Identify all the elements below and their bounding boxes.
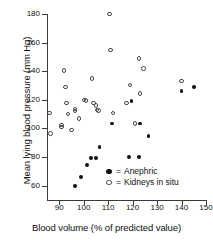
legend-equals-sign: = [115,166,124,177]
data-point-kidneys-in-situ [108,48,112,52]
data-point-anephric [192,85,196,89]
data-point-anephric [79,175,83,179]
y-tick-mark [42,186,47,187]
y-tick-mark [42,43,47,44]
data-point-kidneys-in-situ [107,12,111,16]
y-tick-mark [42,71,47,72]
x-tick-label: 110 [97,203,119,212]
open-circle-icon [103,180,115,186]
y-tick-mark [42,128,47,129]
data-point-kidneys-in-situ [84,98,88,102]
data-point-anephric [130,99,134,103]
data-point-anephric [180,89,184,93]
y-tick-label: 140 [16,67,40,75]
data-point-anephric [94,156,98,160]
chart-legend: = Anephric = Kidneys in situ [103,166,179,188]
data-point-kidneys-in-situ [137,56,141,60]
data-point-kidneys-in-situ [47,111,51,115]
legend-item-kidneys-in-situ: = Kidneys in situ [103,177,179,188]
scatter-plot-figure: Mean lying blood pressure (mm Hg) Blood … [0,0,213,240]
data-point-anephric [85,163,89,167]
data-point-kidneys-in-situ [59,125,63,129]
x-tick-label: 150 [195,203,213,212]
data-point-kidneys-in-situ [48,131,52,135]
y-axis-label: Mean lying blood pressure (mm Hg) [21,21,32,201]
x-tick-label: 100 [73,203,95,212]
x-tick-label: 140 [171,203,193,212]
y-tick-label: 100 [16,124,40,132]
data-point-anephric [110,122,114,126]
filled-circle-icon [103,169,115,175]
y-tick-label: 180 [16,10,40,18]
data-point-anephric [138,122,142,126]
y-tick-mark [42,100,47,101]
legend-item-anephric: = Anephric [103,166,179,177]
legend-equals-sign: = [115,177,124,188]
legend-label-kidneys-in-situ: Kidneys in situ [124,177,179,188]
x-tick-label: 120 [122,203,144,212]
legend-label-anephric: Anephric [124,166,158,177]
x-tick-label: 130 [146,203,168,212]
data-point-kidneys-in-situ [77,116,81,120]
data-point-kidneys-in-situ [138,91,142,95]
y-tick-mark [42,14,47,15]
data-point-kidneys-in-situ [124,101,128,105]
data-point-kidneys-in-situ [90,76,94,80]
data-point-kidneys-in-situ [66,112,70,116]
data-point-anephric [89,156,93,160]
y-tick-label: 80 [16,153,40,161]
data-point-kidneys-in-situ [179,79,183,83]
y-tick-label: 120 [16,96,40,104]
data-point-kidneys-in-situ [128,83,132,87]
data-point-kidneys-in-situ [64,101,68,105]
data-point-kidneys-in-situ [96,108,100,112]
y-tick-label: 160 [16,39,40,47]
data-point-kidneys-in-situ [133,121,137,125]
data-point-kidneys-in-situ [69,128,73,132]
data-point-kidneys-in-situ [73,109,77,113]
data-point-kidneys-in-situ [141,66,145,70]
x-tick-label: 90 [48,203,70,212]
y-tick-label: 60 [16,182,40,190]
data-point-anephric [137,155,141,159]
data-point-kidneys-in-situ [63,85,67,89]
data-point-kidneys-in-situ [111,111,115,115]
data-point-anephric [73,184,77,188]
data-point-anephric [127,155,131,159]
x-axis-label: Blood volume (% of predicted value) [0,222,213,233]
y-tick-mark [42,157,47,158]
data-point-kidneys-in-situ [62,68,66,72]
y-axis-line [47,14,48,201]
data-point-anephric [147,134,151,138]
data-point-anephric [98,145,102,149]
